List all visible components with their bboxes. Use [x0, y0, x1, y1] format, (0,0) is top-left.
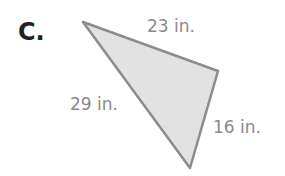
- side-label-right: 16 in.: [213, 117, 261, 137]
- triangle-problem: C. 23 in. 29 in. 16 in.: [0, 0, 285, 176]
- side-label-top: 23 in.: [147, 16, 195, 36]
- side-label-left: 29 in.: [70, 94, 118, 114]
- triangle-figure: [0, 0, 285, 176]
